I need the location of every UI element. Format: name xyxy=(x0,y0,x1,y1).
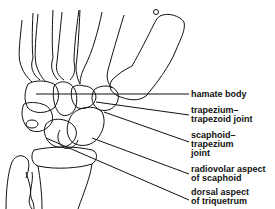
label-line: of scaphoid xyxy=(191,174,266,183)
leader-scaphoid-trapezium xyxy=(104,112,189,142)
radius-shaft xyxy=(38,166,42,209)
scaphoid xyxy=(67,107,104,145)
label-trapezium-trapezoid-joint: trapezium– trapezoid joint xyxy=(191,106,253,124)
lunate xyxy=(44,119,76,147)
leader-radiovolar-scaphoid xyxy=(92,138,189,174)
hook-of-hamate xyxy=(26,120,38,128)
marker-circle xyxy=(154,10,159,15)
label-line: joint xyxy=(191,149,236,158)
label-line: of triquetrum xyxy=(191,197,249,206)
thumb-metacarpal xyxy=(110,14,184,99)
metacarpal-3 xyxy=(56,12,64,80)
label-scaphoid-trapezium-joint: scaphoid– trapezium joint xyxy=(191,131,236,158)
metacarpal-2b xyxy=(80,12,102,84)
label-line: trapezoid joint xyxy=(191,115,253,124)
metacarpal-2 xyxy=(76,10,80,84)
label-hamate-body: hamate body xyxy=(191,90,247,99)
label-line: hamate body xyxy=(191,90,247,99)
wrist-diagram: hamate body trapezium– trapezoid joint s… xyxy=(0,0,275,209)
label-dorsal-aspect-triquetrum: dorsal aspect of triquetrum xyxy=(191,188,249,206)
metacarpal-5b xyxy=(35,14,46,82)
radius-cap xyxy=(32,147,97,168)
ulna-styloid-b xyxy=(31,172,34,209)
metacarpal-5 xyxy=(19,20,32,82)
radius-shaft-r xyxy=(78,164,92,209)
pisiform-triquetrum xyxy=(22,103,53,132)
label-radiovolar-aspect-scaphoid: radiovolar aspect of scaphoid xyxy=(191,165,266,183)
leader-trapezium-trapezoid xyxy=(96,102,189,115)
ulna-head xyxy=(6,156,29,209)
